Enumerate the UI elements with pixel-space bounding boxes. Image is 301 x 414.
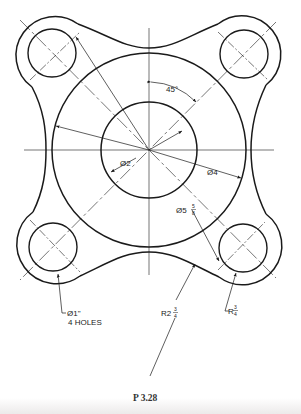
hole-top-left [28, 29, 76, 77]
svg-text:8: 8 [192, 210, 195, 216]
concave-radius-label: R2 3 4 [161, 306, 178, 319]
lobe-radius-label: R 3 4 [228, 304, 238, 317]
svg-text:Ø1": Ø1" [67, 309, 81, 318]
svg-text:R2: R2 [161, 309, 172, 318]
hole-size-label: Ø1" 4 HOLES [67, 309, 102, 327]
svg-text:5: 5 [192, 203, 195, 209]
angle-label: 45° [166, 85, 178, 94]
svg-text:3: 3 [234, 304, 237, 310]
inner-diameter-label: Ø2 [120, 159, 131, 168]
hole-bottom-right [219, 224, 267, 272]
svg-text:Ø5: Ø5 [176, 206, 187, 215]
technical-drawing: 45° Ø2 Ø4 Ø5 5 8 Ø1" 4 HOLES R2 3 4 R 3 [0, 0, 301, 414]
outer-diameter-label: Ø4 [207, 168, 218, 177]
svg-text:Ø2: Ø2 [120, 159, 131, 168]
svg-text:4: 4 [234, 311, 237, 317]
svg-text:3: 3 [174, 306, 177, 312]
hole-count-label: 4 HOLES [68, 318, 102, 327]
svg-text:Ø4: Ø4 [207, 168, 218, 177]
svg-text:4: 4 [174, 313, 177, 319]
figure-caption: P 3.28 [133, 393, 158, 403]
bolt-circle-label: Ø5 5 8 [176, 203, 196, 216]
